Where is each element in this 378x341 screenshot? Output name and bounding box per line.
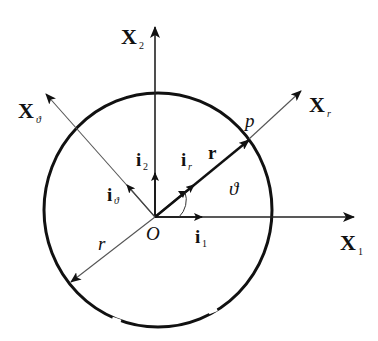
label-ir: i r — [181, 149, 192, 172]
label-xtheta: X ϑ — [18, 98, 42, 125]
label-angle-theta: ϑ — [229, 178, 240, 199]
label-position-vector-r: r — [208, 142, 217, 163]
svg-text:1: 1 — [202, 238, 207, 249]
svg-text:1: 1 — [358, 246, 363, 257]
label-itheta: i ϑ — [107, 184, 120, 206]
svg-text:ϑ: ϑ — [36, 114, 42, 125]
label-origin-o: O — [146, 223, 160, 244]
polar-coordinate-diagram: X 2 X ϑ X r X 1 p r i 2 i r i ϑ i 1 O ϑ … — [0, 0, 378, 341]
svg-text:r: r — [188, 161, 192, 172]
svg-text:ϑ: ϑ — [114, 195, 120, 206]
unit-vector-itheta — [127, 185, 155, 217]
label-xr: X r — [309, 92, 331, 119]
circle-of-radius-r — [44, 93, 272, 327]
svg-text:X: X — [309, 92, 325, 117]
label-x1: X 1 — [340, 230, 363, 257]
svg-text:i: i — [195, 226, 200, 247]
svg-text:2: 2 — [139, 40, 144, 51]
svg-text:X: X — [121, 24, 137, 49]
svg-text:r: r — [327, 108, 331, 119]
svg-text:i: i — [181, 149, 186, 170]
radius-line — [71, 217, 155, 282]
label-x2: X 2 — [121, 24, 144, 51]
label-i1: i 1 — [195, 226, 207, 249]
unit-vector-ir — [155, 185, 194, 217]
svg-text:i: i — [136, 149, 141, 170]
svg-text:i: i — [107, 184, 112, 205]
svg-text:X: X — [340, 230, 356, 255]
label-radius-r: r — [98, 233, 106, 254]
xr-axis — [249, 91, 301, 139]
label-point-p: p — [243, 110, 255, 131]
svg-text:X: X — [18, 98, 34, 123]
label-i2: i 2 — [136, 149, 148, 172]
svg-text:2: 2 — [143, 161, 148, 172]
